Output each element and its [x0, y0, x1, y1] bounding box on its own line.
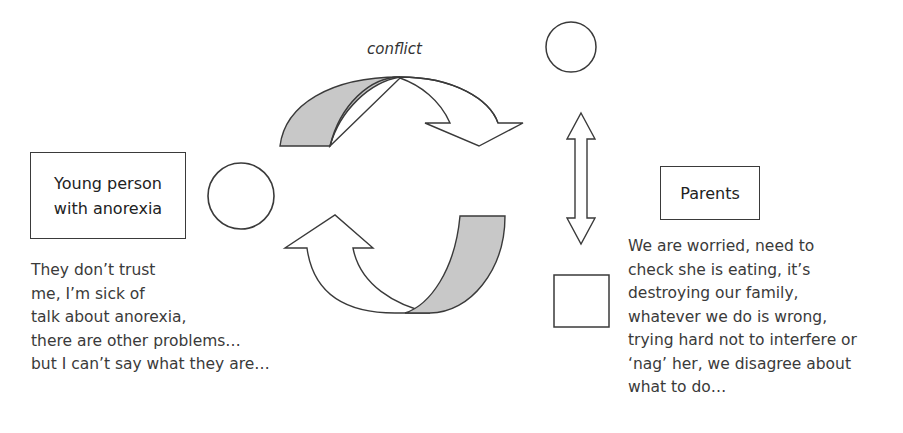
conflict-label: conflict [367, 40, 422, 58]
double-arrow-icon [567, 113, 595, 244]
parent-square-icon [554, 275, 609, 327]
parents-quote: We are worried, need to check she is eat… [628, 235, 857, 400]
young-person-circle-icon [208, 163, 274, 229]
parents-box: Parents [660, 166, 760, 220]
curved-arrow-top-icon [280, 77, 523, 146]
young-person-box: Young person with anorexia [30, 152, 186, 239]
parent-circle-icon [546, 22, 596, 72]
curved-arrow-bottom-icon [285, 215, 505, 313]
young-person-quote: They don’t trust me, I’m sick of talk ab… [31, 259, 270, 377]
